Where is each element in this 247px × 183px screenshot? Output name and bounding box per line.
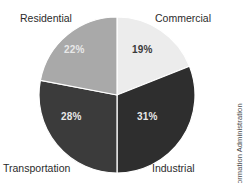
slice-value-residential: 22% xyxy=(64,45,85,55)
pie-chart-plot-area xyxy=(39,12,196,179)
slice-value-industrial: 31% xyxy=(137,112,158,122)
category-label-transportation: Transportation xyxy=(3,163,70,174)
category-label-commercial: Commercial xyxy=(155,13,211,24)
pie-chart-svg xyxy=(39,12,196,179)
pie-slice-transportation[interactable] xyxy=(39,80,117,173)
slice-value-transportation: 28% xyxy=(61,112,82,122)
source-credit-text: © U.S. Energy Information Administration xyxy=(235,103,243,183)
category-label-industrial: Industrial xyxy=(152,163,195,174)
source-credit: © U.S. Energy Information Administration xyxy=(232,7,246,177)
slice-value-commercial: 19% xyxy=(132,45,153,55)
pie-chart-figure: 19% 31% 28% 22% Residential Commercial T… xyxy=(0,0,247,183)
category-label-residential: Residential xyxy=(20,13,72,24)
